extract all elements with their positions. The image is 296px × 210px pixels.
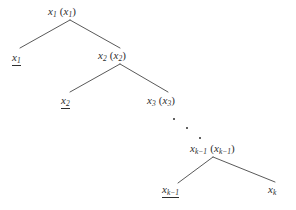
node-x2-leaf: x2 xyxy=(61,95,70,109)
node-subscript: 3 xyxy=(152,99,156,108)
node-xk-leaf: xk xyxy=(268,184,276,197)
node-x1-leaf: x1 xyxy=(12,52,21,66)
vector-underline: xk−1 xyxy=(162,184,179,198)
ellipsis-dot-3 xyxy=(199,137,201,139)
edge-root-to-leaf-x1 xyxy=(20,20,70,48)
edge-root-to-x2 xyxy=(70,20,120,48)
edge-xk1-to-leaf-xk1 xyxy=(178,157,213,183)
node-subscript: 2 xyxy=(66,99,70,108)
edge-x2-to-x3 xyxy=(120,64,168,92)
edge-xk1-to-leaf-xk xyxy=(213,157,275,182)
paren-close: ) xyxy=(122,49,126,61)
paren-close: ) xyxy=(171,94,175,106)
edge-x2-to-leaf-x2 xyxy=(70,64,120,92)
node-xk-1-leaf: xk−1 xyxy=(162,184,179,198)
node-subscript: 1 xyxy=(17,56,21,65)
vector-underline: x2 xyxy=(61,95,70,109)
node-x3-internal: x3(x3) xyxy=(147,95,175,108)
node-subscript: k−1 xyxy=(167,188,179,197)
paren-close: ) xyxy=(231,142,235,154)
node-subscript: 2 xyxy=(103,54,107,63)
paren-close: ) xyxy=(72,5,76,17)
ellipsis-dot-1 xyxy=(173,118,175,120)
node-x2-internal: x2(x2) xyxy=(98,50,126,63)
paren-subscript: k−1 xyxy=(219,147,231,156)
tree-diagram-canvas: x1(x1) x1 x2(x2) x2 x3(x3) xk−1(xk−1) xk… xyxy=(0,0,296,210)
vector-underline: x1 xyxy=(12,52,21,66)
node-subscript: k xyxy=(273,188,276,197)
node-xk-1-internal: xk−1(xk−1) xyxy=(190,143,235,156)
ellipsis-dot-2 xyxy=(186,127,188,129)
node-subscript: k−1 xyxy=(195,147,207,156)
node-x1-internal: x1(x1) xyxy=(48,6,76,19)
node-subscript: 1 xyxy=(53,10,57,19)
